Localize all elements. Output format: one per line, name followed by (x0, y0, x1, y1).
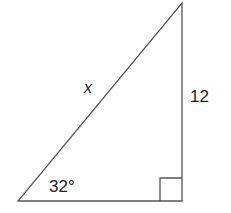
angle-label: 32° (49, 177, 75, 196)
right-angle-marker (160, 178, 182, 201)
hypotenuse-label: x (83, 79, 93, 96)
side-length-label: 12 (190, 87, 209, 106)
right-triangle (18, 3, 182, 201)
triangle-diagram: x 12 32° (0, 0, 231, 213)
